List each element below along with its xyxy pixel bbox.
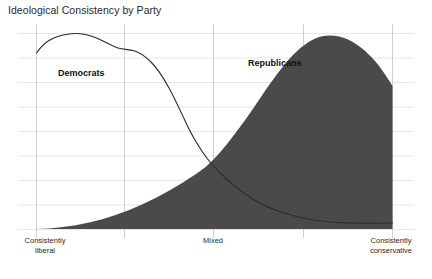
x-axis-label-consistently-conservative: Consistently conservative — [352, 236, 430, 255]
x-axis-label-consistently-liberal: Consistently liberal — [6, 236, 84, 255]
series-label-democrats: Democrats — [58, 68, 105, 78]
republicans-area — [37, 36, 393, 230]
x-axis-label-mixed: Mixed — [184, 236, 242, 246]
series-label-republicans: Republicans — [248, 58, 302, 68]
ideological-consistency-chart: Ideological Consistency by Party — [0, 0, 432, 279]
